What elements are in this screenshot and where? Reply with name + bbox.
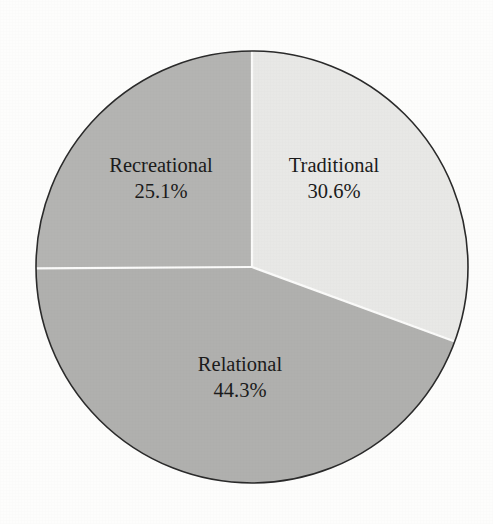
slice-label-relational-value: 44.3%	[214, 379, 267, 401]
slice-label-recreational-name: Recreational	[109, 154, 213, 176]
pie-chart-svg: Traditional 30.6% Relational 44.3% Recre…	[0, 0, 493, 524]
slice-label-recreational-value: 25.1%	[135, 180, 188, 202]
slice-label-traditional-name: Traditional	[289, 154, 380, 176]
slice-label-relational-name: Relational	[198, 353, 283, 375]
slice-label-traditional-value: 30.6%	[308, 180, 361, 202]
slice-divider-2	[36, 267, 252, 268]
pie-chart-figure: Traditional 30.6% Relational 44.3% Recre…	[0, 0, 493, 524]
